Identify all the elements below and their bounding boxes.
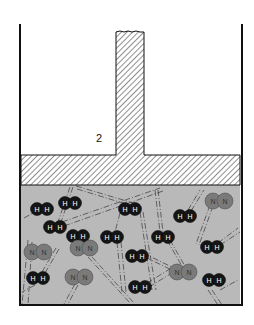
svg-text:H: H (129, 253, 134, 260)
svg-text:H: H (177, 213, 182, 220)
svg-text:H: H (187, 213, 192, 220)
svg-text:N: N (70, 274, 75, 281)
svg-text:N: N (210, 198, 215, 205)
svg-text:H: H (80, 233, 85, 240)
piston-cylinder-diagram: HHHHHHHHHHHHHHHHHHHHHHHHHHNNNNNNNNNN (0, 0, 254, 325)
svg-text:H: H (122, 206, 127, 213)
svg-text:H: H (165, 234, 170, 241)
nitrogen-molecule: NN (169, 264, 197, 280)
svg-text:H: H (214, 244, 219, 251)
svg-text:H: H (40, 275, 45, 282)
piston (21, 31, 240, 185)
svg-text:H: H (155, 234, 160, 241)
nitrogen-molecule: NN (70, 240, 98, 256)
svg-text:H: H (139, 253, 144, 260)
svg-text:N: N (75, 245, 80, 252)
svg-text:N: N (29, 249, 34, 256)
nitrogen-molecule: NN (205, 193, 233, 209)
svg-text:H: H (206, 277, 211, 284)
svg-text:N: N (41, 249, 46, 256)
svg-text:H: H (132, 206, 137, 213)
svg-text:H: H (47, 224, 52, 231)
svg-text:H: H (70, 233, 75, 240)
svg-text:H: H (132, 284, 137, 291)
svg-text:H: H (62, 200, 67, 207)
svg-text:N: N (222, 198, 227, 205)
nitrogen-molecule: NN (24, 244, 52, 260)
svg-text:H: H (142, 284, 147, 291)
svg-text:N: N (174, 269, 179, 276)
svg-text:N: N (82, 274, 87, 281)
svg-text:H: H (114, 234, 119, 241)
svg-text:N: N (87, 245, 92, 252)
svg-text:H: H (30, 275, 35, 282)
svg-text:H: H (57, 224, 62, 231)
svg-text:H: H (44, 206, 49, 213)
figure-label: 2 (96, 132, 102, 144)
svg-text:H: H (204, 244, 209, 251)
svg-text:H: H (72, 200, 77, 207)
svg-text:H: H (216, 277, 221, 284)
svg-text:N: N (186, 269, 191, 276)
svg-text:H: H (34, 206, 39, 213)
nitrogen-molecule: NN (65, 269, 93, 285)
svg-text:H: H (104, 234, 109, 241)
